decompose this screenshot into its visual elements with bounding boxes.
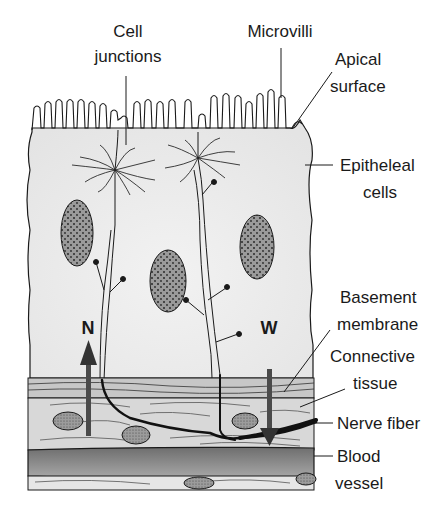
label-nerve-fiber: Nerve fiber [337,414,420,433]
label-epithelial-cells-2: cells [363,183,397,202]
label-blood-vessel-1: Blood [337,447,380,466]
label-arrow-w: W [261,318,278,338]
label-cell-junctions-2: junctions [93,47,161,66]
label-microvilli: Microvilli [247,22,312,41]
label-cell-junctions-1: Cell [113,22,142,41]
label-basement-membrane-1: Basement [340,288,417,307]
microvilli [32,90,302,131]
label-epithelial-cells-1: Epitheleal [340,156,415,175]
epithelium-diagram: Cell junctions Microvilli Apical surface… [0,0,447,512]
label-blood-vessel-2: vessel [335,474,383,493]
label-apical-surface-1: Apical [335,50,381,69]
label-apical-surface-2: surface [330,77,386,96]
blood-vessel [28,447,316,490]
label-connective-tissue-1: Connective [330,347,415,366]
label-basement-membrane-2: membrane [337,315,418,334]
label-connective-tissue-2: tissue [353,374,397,393]
label-arrow-n: N [82,318,95,338]
